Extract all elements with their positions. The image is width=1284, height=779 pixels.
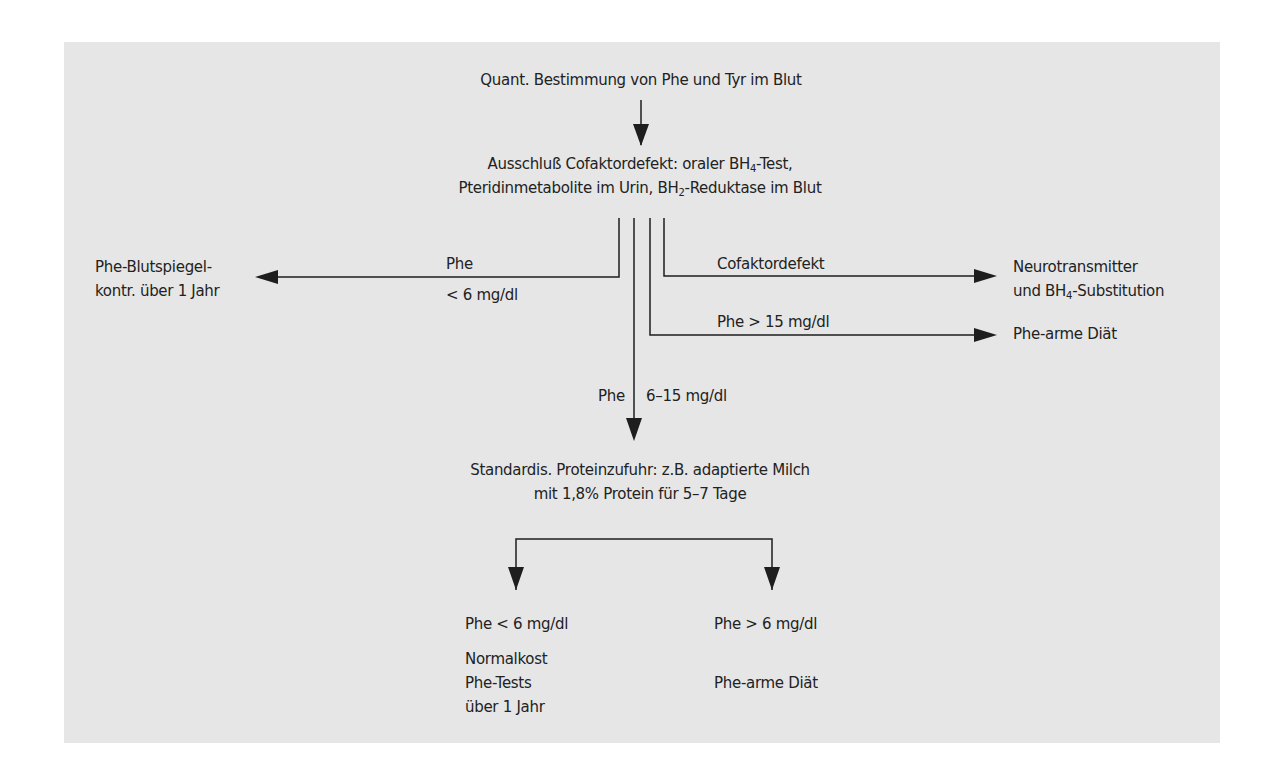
arrowhead-down [764, 567, 780, 590]
edge-label-mid-left: Phe [598, 384, 625, 408]
arrowhead-down [633, 124, 649, 146]
node-start: Quant. Bestimmung von Phe und Tyr im Blu… [440, 68, 842, 92]
arrowhead-right [974, 269, 997, 283]
arrow-to-neurotransmitter [664, 218, 992, 276]
arrowhead-down [626, 418, 642, 441]
node-neurotransmitter: Neurotransmitter und BH4-Substitution [1013, 255, 1164, 303]
node-standard-protein: Standardis. Proteinzufuhr: z.B. adaptier… [380, 458, 900, 506]
edge-label-mid-right: 6–15 mg/dl [646, 384, 727, 408]
edge-label-low-bottom: < 6 mg/dl [446, 283, 518, 307]
node-phe-poor-diet-1: Phe-arme Diät [1013, 322, 1117, 346]
condition-low: Phe < 6 mg/dl [465, 612, 568, 636]
flowchart-connectors [0, 0, 1284, 779]
arrowhead-left [255, 270, 278, 284]
edge-label-high: Phe > 15 mg/dl [717, 310, 829, 334]
arrow-to-blood-level-control [258, 218, 619, 277]
node-normal-diet: Normalkost Phe-Tests über 1 Jahr [465, 647, 547, 719]
node-blood-level-control: Phe-Blutspiegel- kontr. über 1 Jahr [95, 255, 219, 303]
node-cofactor-exclusion: Ausschluß Cofaktordefekt: oraler BH4-Tes… [380, 152, 900, 200]
edge-label-cofactor: Cofaktordefekt [717, 252, 824, 276]
node-phe-poor-diet-2: Phe-arme Diät [714, 671, 818, 695]
edge-label-low-top: Phe [446, 252, 473, 276]
condition-high: Phe > 6 mg/dl [714, 612, 817, 636]
bracket-split [516, 539, 772, 590]
arrowhead-right [974, 328, 997, 342]
arrowhead-down [508, 567, 524, 590]
